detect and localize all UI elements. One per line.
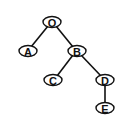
node-o: O: [43, 17, 61, 29]
node-label-c: C: [49, 75, 57, 87]
edge-b-c: [57, 55, 73, 76]
edge-o-b: [56, 26, 73, 47]
edge-o-a: [31, 26, 48, 47]
node-d: D: [96, 75, 114, 87]
node-b: B: [68, 46, 86, 58]
node-label-e: E: [101, 103, 108, 115]
node-label-d: D: [101, 75, 109, 87]
edge-b-d: [81, 55, 101, 76]
node-a: A: [19, 46, 37, 58]
edges: [31, 26, 105, 103]
node-label-a: A: [24, 46, 32, 58]
node-label-b: B: [73, 46, 81, 58]
node-e: E: [96, 103, 114, 115]
node-c: C: [44, 75, 62, 87]
node-label-o: O: [48, 17, 57, 29]
tree-diagram: O A B C D E: [0, 0, 124, 121]
